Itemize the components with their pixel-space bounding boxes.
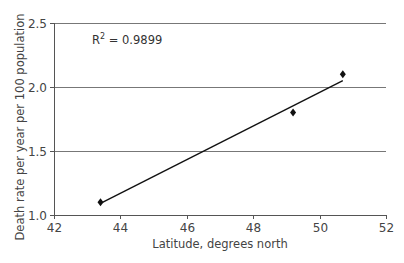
x-axis-ticks: 424446485052: [47, 215, 394, 235]
linear-fit-line: [100, 81, 342, 204]
diamond-marker: [97, 198, 103, 206]
x-tick-label: 48: [246, 221, 261, 235]
x-tick-label: 44: [113, 221, 128, 235]
diamond-marker: [290, 109, 296, 117]
r-squared-annotation: R2 = 0.9899: [92, 32, 162, 47]
diamond-marker: [340, 70, 346, 78]
x-tick-label: 52: [379, 221, 394, 235]
y-tick-label: 1.5: [28, 145, 47, 159]
scatter-chart: 424446485052 1.01.52.02.5 R2 = 0.9899 La…: [0, 0, 404, 263]
y-tick-label: 2.5: [28, 17, 47, 31]
y-axis-ticks: 1.01.52.02.5: [28, 17, 54, 223]
axes: [54, 23, 386, 216]
trendline: [100, 81, 342, 204]
x-tick-label: 42: [47, 221, 62, 235]
y-tick-label: 1.0: [28, 209, 47, 223]
x-tick-label: 50: [313, 221, 328, 235]
y-axis-title: Death rate per year per 100 population: [13, 13, 27, 240]
gridlines: [54, 24, 386, 152]
x-axis-title: Latitude, degrees north: [152, 237, 287, 251]
y-tick-label: 2.0: [28, 81, 47, 95]
x-tick-label: 46: [180, 221, 195, 235]
